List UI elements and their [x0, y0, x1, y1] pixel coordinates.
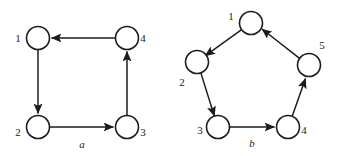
node-label-b-2: 2 — [179, 76, 185, 88]
node-label-a-4: 4 — [140, 32, 146, 44]
edge-b-4-to-5 — [292, 79, 305, 117]
node-label-a-1: 1 — [15, 32, 21, 44]
node-b-4[interactable] — [277, 116, 300, 139]
node-a-4[interactable] — [116, 27, 139, 50]
node-b-2[interactable] — [186, 51, 209, 74]
node-label-a-2: 2 — [15, 126, 21, 138]
node-a-1[interactable] — [27, 27, 50, 50]
node-a-3[interactable] — [116, 116, 139, 139]
caption-b: b — [249, 137, 255, 149]
edge-b-5-to-1 — [262, 29, 300, 59]
diagram-b: 1 2 5 3 4 b — [179, 10, 325, 149]
node-label-b-4: 4 — [301, 124, 307, 136]
node-label-b-5: 5 — [319, 39, 325, 51]
node-b-1[interactable] — [240, 12, 263, 35]
node-label-b-3: 3 — [197, 124, 203, 136]
directed-graph-figure: 1 4 2 3 a 1 2 5 3 4 — [0, 0, 341, 156]
diagram-a: 1 4 2 3 a — [15, 27, 146, 151]
node-label-a-3: 3 — [140, 126, 146, 138]
node-b-5[interactable] — [298, 54, 321, 77]
edge-b-1-to-2 — [205, 30, 242, 56]
caption-a: a — [79, 138, 85, 150]
edge-b-2-to-3 — [201, 73, 215, 116]
figure-canvas: 1 4 2 3 a 1 2 5 3 4 — [0, 0, 341, 156]
node-label-b-1: 1 — [228, 10, 234, 22]
node-a-2[interactable] — [27, 116, 50, 139]
node-b-3[interactable] — [207, 116, 230, 139]
